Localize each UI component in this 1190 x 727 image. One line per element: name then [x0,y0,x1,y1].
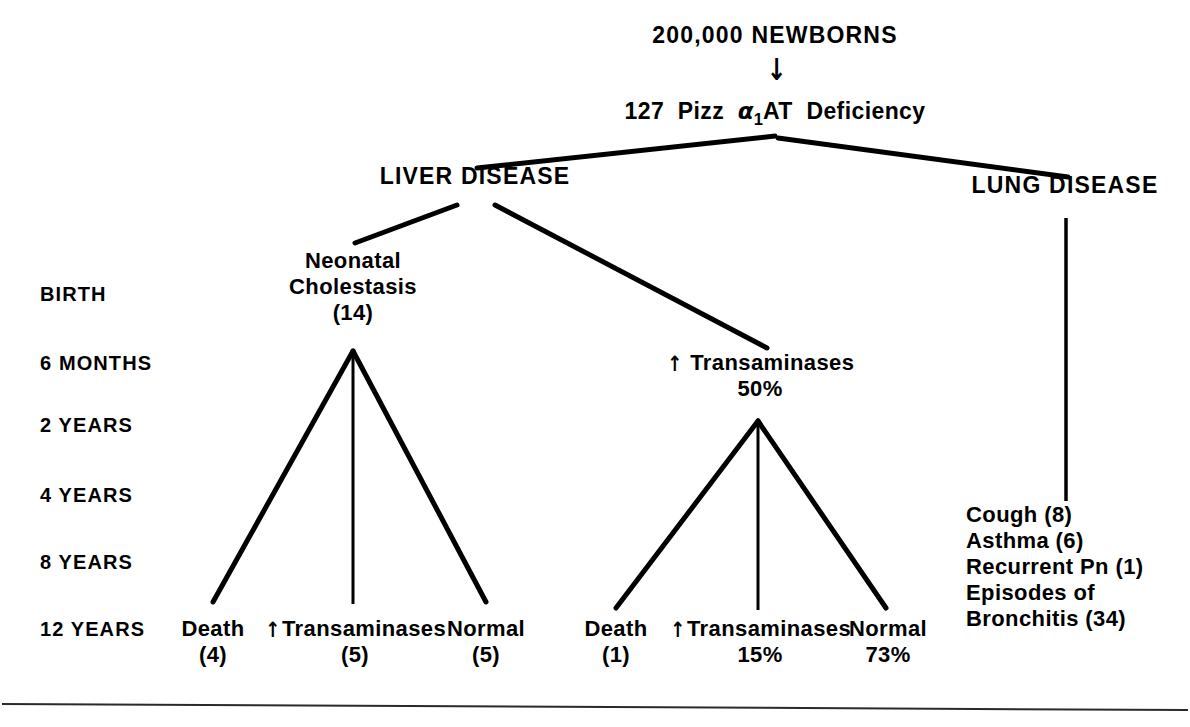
node-liver-disease: LIVER DISEASE [320,163,630,190]
left-outcome-normal-count: (5) [426,642,546,668]
node-left-outcome-normal: Normal (5) [426,616,546,668]
node-lung-disease: LUNG DISEASE [940,172,1190,199]
lung-finding-recurrent-pn: Recurrent Pn (1) [966,554,1190,580]
node-lung-findings: Cough (8) Asthma (6) Recurrent Pn (1) Ep… [966,502,1190,632]
bottom-rule [2,704,1188,710]
lung-finding-bronchitis: Bronchitis (34) [966,606,1190,632]
edge-cholestasis-to-death [213,351,353,602]
down-arrow-icon: ↓ [767,55,787,85]
transaminases-mid-label: Transaminases [690,350,854,375]
node-deficiency: 127 Pizz α1AT Deficiency [575,98,975,129]
alpha-symbol: α [738,98,754,124]
deficiency-phenotype: Pizz [678,98,724,124]
deficiency-count: 127 [625,98,665,124]
deficiency-condition: Deficiency [806,98,925,124]
timeline-label-12-years: 12 YEARS [40,618,145,641]
lung-finding-cough: Cough (8) [966,502,1190,528]
node-newborns: 200,000 NEWBORNS [600,22,950,49]
node-transaminases-mid: ↑ Transaminases 50% [648,350,872,402]
timeline-label-2-years: 2 YEARS [40,414,133,437]
up-arrow-icon: ↑ [667,352,682,377]
flowchart-figure: 200,000 NEWBORNS ↓ 127 Pizz α1AT Deficie… [0,0,1190,727]
edge-cholestasis-to-normal [353,351,486,602]
transaminases-mid-value: 50% [648,376,872,402]
lung-finding-episodes-of: Episodes of [966,580,1190,606]
deficiency-protein: AT [763,98,793,124]
up-arrow-icon: ↑ [670,618,685,643]
edge-liver-to-transaminases [495,205,767,348]
cholestasis-line2: Cholestasis [243,274,463,300]
timeline-label-6-months: 6 MONTHS [40,352,152,375]
cholestasis-line1: Neonatal [243,248,463,274]
edge-liver-to-cholestasis [355,205,457,243]
mid-outcome-normal-value: 73% [828,642,948,668]
edge-transaminases-to-normal [758,421,886,608]
cholestasis-count: (14) [243,300,463,326]
timeline-label-8-years: 8 YEARS [40,551,133,574]
timeline-label-4-years: 4 YEARS [40,484,133,507]
edge-transaminases-to-death [616,421,758,608]
timeline-label-birth: BIRTH [40,283,107,306]
node-neonatal-cholestasis: Neonatal Cholestasis (14) [243,248,463,326]
lung-finding-asthma: Asthma (6) [966,528,1190,554]
node-mid-outcome-normal: Normal 73% [828,616,948,668]
up-arrow-icon: ↑ [265,618,280,643]
alpha-subscript: 1 [754,110,763,129]
